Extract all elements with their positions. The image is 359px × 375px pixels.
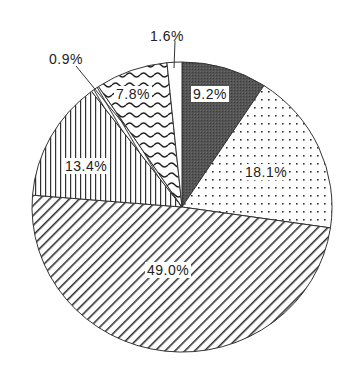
- slice-label-7-8: 7.8%: [114, 86, 152, 102]
- slice-label-0-9: 0.9%: [49, 51, 83, 67]
- slice-label-1-6: 1.6%: [150, 28, 184, 44]
- slice-label-13-4: 13.4%: [63, 158, 109, 174]
- slice-label-9-2: 9.2%: [191, 86, 229, 102]
- slice-label-18-1: 18.1%: [243, 164, 289, 180]
- pie-slices: [32, 62, 332, 352]
- slice-label-49-0: 49.0%: [145, 262, 191, 278]
